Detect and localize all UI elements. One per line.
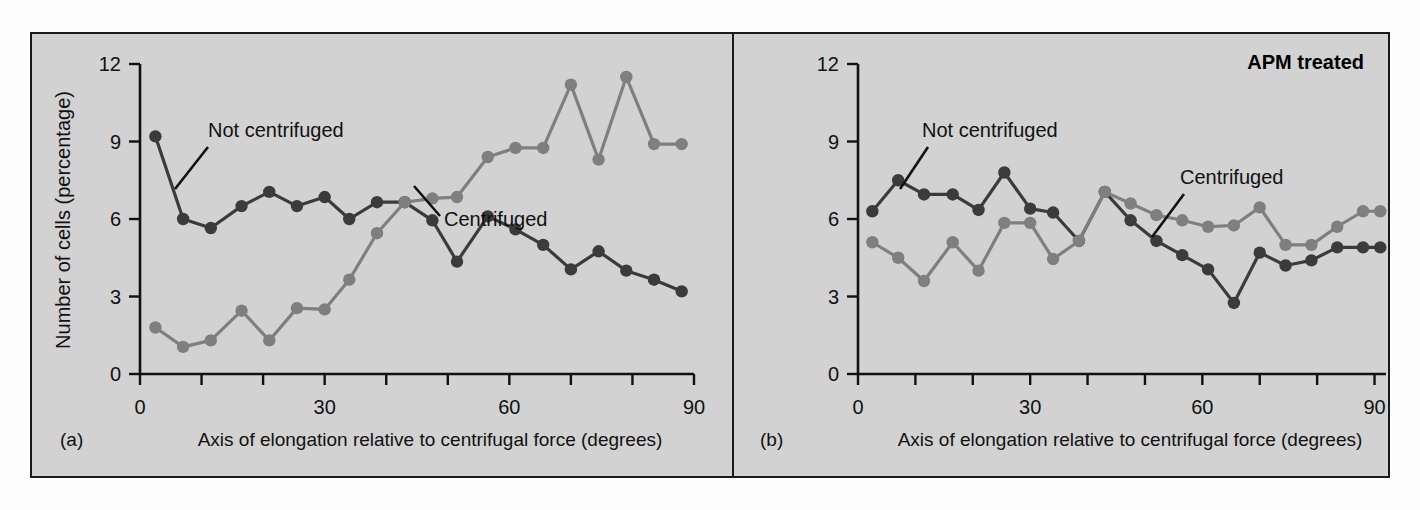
- y-tick-label: 0: [110, 363, 121, 385]
- data-point: [1024, 202, 1036, 214]
- panel-a-leader-not-centrifuged: [175, 147, 208, 189]
- panel-b-label: (b): [760, 429, 783, 450]
- data-point: [565, 263, 577, 275]
- data-point: [318, 191, 330, 203]
- data-point: [866, 236, 878, 248]
- data-point: [451, 191, 463, 203]
- data-point: [675, 285, 687, 297]
- panel-a-plot: 0369120306090Number of cells (percentage…: [32, 34, 732, 480]
- data-point: [371, 196, 383, 208]
- data-point: [1047, 253, 1059, 265]
- data-point: [918, 188, 930, 200]
- data-point: [1357, 241, 1369, 253]
- data-point: [263, 186, 275, 198]
- y-tick-label: 6: [828, 208, 839, 230]
- panel-b-plot: 0369120306090Axis of elongation relative…: [732, 34, 1392, 480]
- x-tick-label: 90: [683, 396, 705, 418]
- x-tick-label: 30: [1019, 396, 1041, 418]
- data-point: [972, 204, 984, 216]
- data-point: [1150, 209, 1162, 221]
- data-point: [565, 78, 577, 90]
- panel-a-y-axis-title: Number of cells (percentage): [52, 91, 74, 349]
- data-point: [149, 321, 161, 333]
- data-point: [149, 130, 161, 142]
- x-tick-label: 60: [498, 396, 520, 418]
- figure-panel-container: 0369120306090Number of cells (percentage…: [30, 32, 1390, 478]
- axis-lines: [858, 64, 1386, 374]
- x-tick-label: 30: [314, 396, 336, 418]
- data-point: [1228, 219, 1240, 231]
- data-point: [177, 213, 189, 225]
- data-point: [343, 213, 355, 225]
- data-point: [1254, 246, 1266, 258]
- panel-a-annotation-centrifuged: Centrifuged: [444, 208, 547, 230]
- chart-panel-a: 0369120306090Number of cells (percentage…: [32, 34, 732, 476]
- data-point: [1374, 241, 1386, 253]
- x-tick-label: 60: [1191, 396, 1213, 418]
- data-point: [1305, 254, 1317, 266]
- data-point: [205, 334, 217, 346]
- y-tick-label: 6: [110, 208, 121, 230]
- data-point: [675, 138, 687, 150]
- x-tick-label: 0: [134, 396, 145, 418]
- data-point: [648, 138, 660, 150]
- panel-b-title-note: APM treated: [1247, 51, 1364, 73]
- data-point: [592, 245, 604, 257]
- data-point: [291, 302, 303, 314]
- data-point: [205, 222, 217, 234]
- data-point: [263, 334, 275, 346]
- panel-b-annotation-centrifuged: Centrifuged: [1180, 166, 1283, 188]
- panel-a-x-axis-title: Axis of elongation relative to centrifug…: [198, 429, 663, 450]
- data-point: [1047, 206, 1059, 218]
- data-point: [177, 341, 189, 353]
- data-point: [509, 142, 521, 154]
- data-point: [1124, 214, 1136, 226]
- data-point: [1176, 249, 1188, 261]
- y-tick-label: 9: [828, 131, 839, 153]
- y-tick-label: 9: [110, 131, 121, 153]
- data-point: [866, 205, 878, 217]
- data-point: [620, 71, 632, 83]
- data-point: [1254, 201, 1266, 213]
- data-point: [371, 227, 383, 239]
- data-point: [592, 153, 604, 165]
- data-point: [1305, 239, 1317, 251]
- data-point: [620, 264, 632, 276]
- data-point: [1279, 259, 1291, 271]
- y-tick-label: 12: [817, 53, 839, 75]
- data-point: [1331, 241, 1343, 253]
- panel-a-label: (a): [60, 429, 83, 450]
- data-point: [1099, 186, 1111, 198]
- data-point: [946, 188, 958, 200]
- panel-b-annotation-not-centrifuged: Not centrifuged: [922, 119, 1058, 141]
- data-point: [291, 200, 303, 212]
- data-point: [1202, 263, 1214, 275]
- y-tick-label: 3: [110, 286, 121, 308]
- data-point: [1124, 197, 1136, 209]
- data-point: [537, 142, 549, 154]
- data-point: [343, 274, 355, 286]
- data-point: [918, 275, 930, 287]
- data-point: [451, 255, 463, 267]
- data-point: [398, 196, 410, 208]
- data-point: [1228, 297, 1240, 309]
- data-point: [537, 239, 549, 251]
- data-point: [426, 214, 438, 226]
- panel-b-leader-not-centrifuged: [900, 147, 928, 189]
- data-point: [235, 305, 247, 317]
- data-point: [946, 236, 958, 248]
- data-point: [1279, 239, 1291, 251]
- x-tick-label: 0: [852, 396, 863, 418]
- data-point: [1024, 217, 1036, 229]
- x-tick-label: 90: [1363, 396, 1385, 418]
- y-tick-label: 3: [828, 286, 839, 308]
- data-point: [972, 264, 984, 276]
- data-point: [1331, 221, 1343, 233]
- chart-panel-b: 0369120306090Axis of elongation relative…: [732, 34, 1392, 476]
- panel-b-x-axis-title: Axis of elongation relative to centrifug…: [898, 429, 1363, 450]
- data-point: [1073, 235, 1085, 247]
- data-point: [1357, 205, 1369, 217]
- data-point: [1176, 214, 1188, 226]
- y-tick-label: 0: [828, 363, 839, 385]
- data-point: [235, 200, 247, 212]
